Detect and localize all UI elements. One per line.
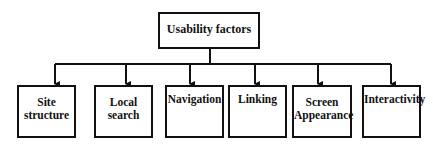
node-label-line: structure (19, 109, 74, 122)
node-label-line: Linking (230, 93, 285, 106)
node-screen-appearance: Screen Appearance (292, 85, 352, 138)
node-label-line: Site (19, 96, 74, 109)
node-navigation: Navigation (165, 85, 224, 138)
node-label-line: Navigation (167, 93, 222, 106)
node-label-line: Screen (294, 96, 350, 109)
root-node-usability-factors: Usability factors (158, 12, 260, 49)
node-interactivity: Interactivity (362, 85, 421, 138)
node-linking: Linking (228, 85, 287, 138)
root-node-label: Usability factors (167, 22, 251, 36)
node-site-structure: Site structure (17, 85, 76, 138)
node-label-line: Appearance (294, 109, 350, 122)
node-label-line: search (96, 109, 151, 122)
node-label-line: Interactivity (364, 93, 419, 106)
node-local-search: Local search (94, 85, 153, 138)
node-label-line: Local (96, 96, 151, 109)
